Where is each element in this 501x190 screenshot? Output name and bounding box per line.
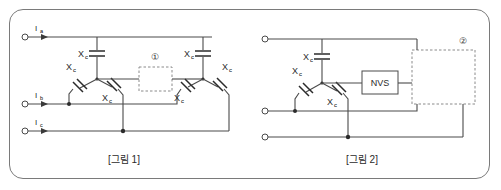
diagram-root: I a I b I c X c X c bbox=[0, 0, 501, 190]
terminal-ib bbox=[22, 101, 28, 107]
terminal-2-b bbox=[262, 108, 268, 114]
callout-1-label: ① bbox=[151, 52, 159, 62]
node-phase-c-left bbox=[121, 129, 125, 133]
figure-1-caption: [그림 1] bbox=[108, 154, 140, 165]
arrow-ic-icon bbox=[41, 128, 48, 134]
current-label-ic: I bbox=[35, 118, 37, 127]
current-label-ib: I bbox=[35, 91, 37, 100]
current-sublabel-ib: b bbox=[40, 95, 43, 101]
node-2-phase-c bbox=[346, 135, 350, 139]
callout-2-label: ② bbox=[459, 36, 467, 46]
cap-sublabel-rightleft-diagonal: c bbox=[181, 98, 184, 104]
wire-left-diag-lower bbox=[69, 89, 73, 104]
node-phase-b-left bbox=[67, 102, 71, 106]
wire-2-right-diag-lower bbox=[343, 93, 348, 137]
cap-sublabel-leftright-diagonal: c bbox=[109, 98, 112, 104]
cap-2-sublabel-right-diagonal: c bbox=[334, 102, 337, 108]
figure-2-group: X c X c X c NVS bbox=[262, 36, 475, 165]
cap-label-left-diagonal: X bbox=[66, 62, 72, 72]
dashed-box-2 bbox=[412, 50, 475, 104]
wire-leftright-diag-lower bbox=[118, 89, 123, 131]
terminal-2-c bbox=[262, 134, 268, 140]
wire-rightright-diag-lower bbox=[224, 89, 229, 131]
cap-sublabel-left-diagonal: c bbox=[73, 67, 76, 73]
wire-rightleft-diag-upper bbox=[188, 79, 203, 87]
arrow-ib-icon bbox=[41, 101, 48, 107]
current-sublabel-ic: c bbox=[40, 122, 43, 128]
wire-2-dash-to-phase-b bbox=[352, 104, 417, 111]
cap-2-label-right-diagonal: X bbox=[327, 97, 333, 107]
circuit-diagram-svg: I a I b I c X c X c bbox=[0, 0, 501, 190]
cap-label-rightright-diagonal: X bbox=[222, 62, 228, 72]
terminal-ic bbox=[22, 128, 28, 134]
cap-2-label-left-diagonal: X bbox=[292, 66, 298, 76]
cap-label-leftright-diagonal: X bbox=[102, 93, 108, 103]
cap-label-rightleft-diagonal: X bbox=[174, 93, 180, 103]
cap-label-right-vertical: X bbox=[184, 49, 190, 59]
cap-2-sublabel-vertical: c bbox=[310, 57, 313, 63]
current-sublabel-ia: a bbox=[40, 28, 44, 34]
cap-sublabel-left-vertical: c bbox=[85, 54, 88, 60]
nvs-block-label: NVS bbox=[371, 78, 390, 88]
cap-sublabel-right-vertical: c bbox=[191, 54, 194, 60]
cap-2-label-vertical: X bbox=[303, 52, 309, 62]
cap-2-sublabel-left-diagonal: c bbox=[299, 71, 302, 77]
dashed-box-1 bbox=[139, 67, 172, 91]
figure-1-group: I a I b I c X c X c bbox=[22, 24, 232, 165]
terminal-ia bbox=[22, 34, 28, 40]
current-label-ia: I bbox=[35, 24, 37, 33]
node-2-phase-b bbox=[293, 109, 297, 113]
wire-2-left-diag-lower bbox=[295, 93, 299, 111]
cap-sublabel-rightright-diagonal: c bbox=[229, 67, 232, 73]
terminal-2-a bbox=[262, 36, 268, 42]
cap-label-left-vertical: X bbox=[78, 49, 84, 59]
figure-2-caption: [그림 2] bbox=[346, 154, 378, 165]
arrow-ia-icon bbox=[41, 34, 48, 40]
